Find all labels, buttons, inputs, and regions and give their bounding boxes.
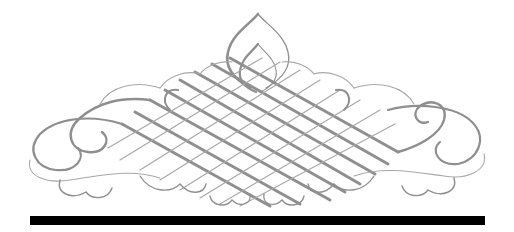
lattice-thin-strokes xyxy=(108,58,395,206)
horizontal-black-rule xyxy=(30,216,485,225)
dome-finial xyxy=(227,14,289,92)
calligraphic-flourish-ornament xyxy=(0,0,514,210)
lattice-thick-strokes xyxy=(122,58,398,206)
